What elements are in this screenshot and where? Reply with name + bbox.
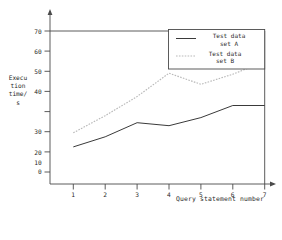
y-tick-label-70: 70 (20, 28, 42, 35)
legend-label-test-data-set-b: Test data set B (196, 50, 254, 65)
y-axis-title: Execu tion time/ s (1, 74, 35, 107)
y-tick-label-30: 30 (20, 128, 42, 135)
x-tick-label-2: 2 (97, 191, 113, 198)
legend-label-b-line-1: Test data (196, 50, 254, 58)
y-tick-label-10: 10 (20, 159, 42, 166)
x-axis-title: Query statement number (176, 195, 264, 203)
y-axis-title-line-3: time/ (1, 90, 35, 98)
y-tick-label-0: 0 (20, 168, 42, 175)
y-axis-title-line-4: s (1, 99, 35, 107)
x-tick-label-3: 3 (129, 191, 145, 198)
y-axis-title-line-2: tion (1, 82, 35, 90)
y-tick-label-60: 60 (20, 48, 42, 55)
legend-label-b-line-2: set B (196, 57, 254, 65)
legend-label-a-line-1: Test data (200, 32, 258, 40)
x-tick-label-1: 1 (65, 191, 81, 198)
y-tick-label-20: 20 (20, 149, 42, 156)
y-axis-title-line-1: Execu (1, 74, 35, 82)
legend-label-test-data-set-a: Test data set A (200, 32, 258, 47)
legend-label-a-line-2: set A (200, 40, 258, 48)
x-tick-label-4: 4 (161, 191, 177, 198)
